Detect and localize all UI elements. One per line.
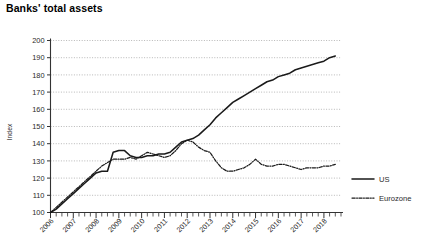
x-tick-label: 2017 (288, 217, 306, 235)
y-tick-label: 100 (32, 208, 44, 217)
y-tick-label: 190 (32, 53, 44, 62)
x-tick-label: 2014 (220, 217, 238, 235)
x-tick-label: 2006 (38, 217, 56, 235)
legend-label-eurozone: Eurozone (379, 194, 412, 203)
y-tick-label: 170 (32, 88, 44, 97)
chart-plot-area: 100110120130140150160170180190200 200620… (0, 0, 428, 245)
y-tick-label: 140 (32, 139, 44, 148)
x-tick-label: 2011 (152, 217, 169, 234)
x-tick-label: 2018 (311, 217, 329, 235)
gridlines-group (51, 41, 342, 213)
x-tick-labels: 2006200720082009201020112012201320142015… (38, 217, 329, 235)
y-tick-label: 120 (32, 174, 44, 183)
y-tick-label: 150 (32, 122, 44, 131)
x-tick-label: 2009 (106, 217, 124, 235)
x-tick-label: 2015 (243, 217, 261, 235)
y-tick-label: 110 (33, 191, 45, 200)
series-line-us (51, 56, 336, 213)
y-axis: 100110120130140150160170180190200 (32, 36, 50, 217)
x-tick-label: 2016 (266, 217, 284, 235)
y-tick-label: 180 (32, 71, 44, 80)
y-axis-label: Index (6, 123, 13, 140)
x-tick-label: 2013 (197, 217, 215, 235)
legend-label-us: US (379, 175, 390, 184)
x-tick-label: 2007 (61, 217, 79, 235)
x-tick-label: 2012 (174, 217, 192, 235)
data-series-group (51, 56, 336, 213)
y-tick-labels: 100110120130140150160170180190200 (32, 36, 44, 217)
chart-legend: USEurozone (352, 175, 412, 203)
y-tick-label: 200 (32, 36, 44, 45)
x-tick-label: 2010 (129, 217, 147, 235)
x-axis: 2006200720082009201020112012201320142015… (38, 213, 343, 235)
x-tick-label: 2008 (83, 217, 101, 235)
y-tick-label: 160 (32, 105, 44, 114)
y-tick-label: 130 (32, 157, 44, 166)
chart-figure: Banks' total assets 10011012013014015016… (0, 0, 428, 245)
